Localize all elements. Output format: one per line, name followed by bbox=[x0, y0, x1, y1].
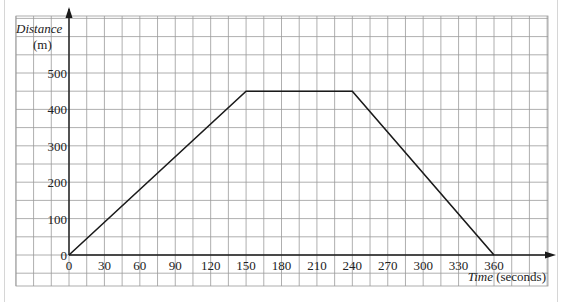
x-tick-label: 30 bbox=[98, 258, 111, 273]
y-axis-unit: (m) bbox=[33, 37, 52, 52]
x-axis-label-main: Time bbox=[468, 269, 494, 284]
y-tick-label: 100 bbox=[48, 212, 68, 227]
distance-time-graph: 0306090120150180210240270300330360010020… bbox=[0, 0, 563, 302]
x-axis-label: Time (seconds) bbox=[468, 269, 546, 284]
x-tick-label: 240 bbox=[343, 258, 363, 273]
tick-labels: 0306090120150180210240270300330360010020… bbox=[48, 66, 504, 273]
grid-border bbox=[16, 16, 548, 286]
y-axis-label-main: Distance bbox=[15, 21, 62, 36]
y-tick-label: 500 bbox=[48, 66, 68, 81]
x-tick-label: 300 bbox=[413, 258, 433, 273]
x-tick-label: 270 bbox=[378, 258, 398, 273]
axes bbox=[66, 7, 557, 259]
grid bbox=[16, 16, 548, 286]
y-axis-arrow-icon bbox=[66, 7, 73, 18]
y-tick-label: 0 bbox=[61, 248, 68, 263]
x-axis-arrow-icon bbox=[545, 252, 556, 259]
y-tick-label: 400 bbox=[48, 102, 68, 117]
y-tick-label: 200 bbox=[48, 175, 68, 190]
x-tick-label: 150 bbox=[236, 258, 256, 273]
x-tick-label: 210 bbox=[307, 258, 327, 273]
x-tick-label: 180 bbox=[272, 258, 292, 273]
x-axis-unit: (seconds) bbox=[496, 269, 546, 284]
x-tick-label: 90 bbox=[169, 258, 182, 273]
y-axis-label: Distance bbox=[15, 21, 62, 36]
x-tick-label: 330 bbox=[449, 258, 469, 273]
x-tick-label: 60 bbox=[133, 258, 146, 273]
y-tick-label: 300 bbox=[48, 139, 68, 154]
x-tick-label: 120 bbox=[201, 258, 221, 273]
